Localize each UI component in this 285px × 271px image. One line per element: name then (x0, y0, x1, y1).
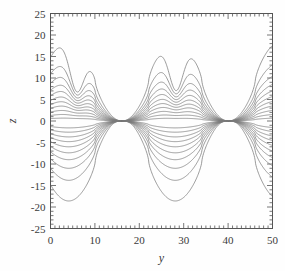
y-tick-label-group: -25-20-15-10-50510152025 (31, 8, 46, 235)
y-tick-label: -5 (36, 137, 46, 149)
x-tick-label: 10 (89, 234, 101, 246)
contour-curves (51, 45, 273, 201)
x-tick-label: 40 (223, 234, 235, 246)
y-tick-label: 15 (35, 51, 47, 63)
x-tick-label: 0 (48, 234, 54, 246)
x-tick-label: 30 (178, 234, 190, 246)
y-tick-label: -10 (31, 158, 46, 170)
x-tick-label-group: 01020304050 (48, 234, 279, 246)
contour-line (51, 121, 273, 168)
x-axis-label: y (158, 251, 165, 265)
y-axis-label: z (5, 118, 19, 124)
contour-plot: 01020304050 -25-20-15-10-50510152025 y z (0, 0, 285, 271)
y-tick-label: 25 (35, 8, 47, 20)
contour-line (51, 45, 273, 121)
y-tick-label: 10 (35, 72, 47, 84)
y-tick-label: -25 (31, 223, 46, 235)
contour-line (51, 65, 273, 121)
y-tick-label: -15 (31, 180, 46, 192)
contour-line (51, 76, 273, 121)
figure-panel: 01020304050 -25-20-15-10-50510152025 y z (0, 0, 285, 271)
y-tick-label: 0 (40, 115, 46, 127)
y-tick-label: -20 (31, 201, 46, 213)
y-tick-label: 5 (40, 94, 46, 106)
contour-line (51, 121, 273, 180)
x-tick-label: 50 (267, 234, 279, 246)
y-tick-label: 20 (35, 29, 47, 41)
contour-line (51, 121, 273, 201)
x-tick-label: 20 (134, 234, 146, 246)
